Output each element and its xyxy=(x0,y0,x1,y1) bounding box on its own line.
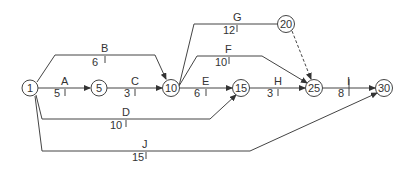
activity-j-label: J xyxy=(142,138,148,150)
node-15: 15 xyxy=(233,80,250,97)
activity-j-duration: 15 xyxy=(132,151,144,163)
network-diagram: B 6 A 5 C 3 D 10 J 15 G 12 F xyxy=(0,0,408,170)
activity-h-duration: 3 xyxy=(267,87,273,99)
activity-a-duration: 5 xyxy=(54,87,60,99)
activity-f-duration: 10 xyxy=(215,56,227,68)
node-25-label: 25 xyxy=(308,82,320,94)
activity-d-duration: 10 xyxy=(110,119,122,131)
dummy-activity xyxy=(292,31,311,79)
activity-b-duration: 6 xyxy=(92,56,98,68)
activity-e-label: E xyxy=(202,75,209,87)
activity-e-duration: 6 xyxy=(194,87,200,99)
activity-e: E 6 xyxy=(180,75,232,99)
activity-i-duration: 8 xyxy=(338,87,344,99)
node-30-label: 30 xyxy=(378,82,390,94)
activity-b: B 6 xyxy=(37,42,166,82)
activity-c: C 3 xyxy=(107,75,162,99)
activity-i-label: I xyxy=(347,75,350,87)
node-15-label: 15 xyxy=(235,82,247,94)
activity-i: I 8 xyxy=(323,75,375,99)
activity-a: A 5 xyxy=(38,75,90,99)
node-20-label: 20 xyxy=(280,18,292,30)
node-10: 10 xyxy=(163,80,180,97)
activity-g-duration: 12 xyxy=(223,24,235,36)
activity-g-label: G xyxy=(233,11,242,23)
node-10-label: 10 xyxy=(165,82,177,94)
node-1: 1 xyxy=(22,80,38,96)
activity-c-label: C xyxy=(131,75,139,87)
activity-j: J 15 xyxy=(35,93,377,163)
activity-a-label: A xyxy=(61,75,69,87)
activity-d: D 10 xyxy=(36,95,236,131)
node-25: 25 xyxy=(306,80,323,97)
activity-h: H 3 xyxy=(250,75,305,99)
activity-f-label: F xyxy=(225,43,232,55)
activity-d-label: D xyxy=(122,106,130,118)
node-5: 5 xyxy=(91,80,107,96)
activity-c-duration: 3 xyxy=(124,87,130,99)
activity-b-label: B xyxy=(101,42,108,54)
node-30: 30 xyxy=(376,80,393,97)
activity-h-label: H xyxy=(274,75,282,87)
node-1-label: 1 xyxy=(27,82,33,94)
node-5-label: 5 xyxy=(96,82,102,94)
node-20: 20 xyxy=(278,16,295,33)
